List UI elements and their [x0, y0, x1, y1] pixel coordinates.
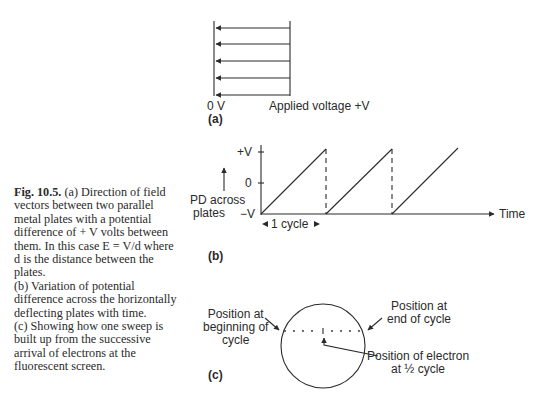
caption-b: (b) Variation of potential difference ac…: [14, 280, 179, 320]
cycle-label: 1 cycle: [271, 217, 308, 231]
figure-number: Fig. 10.5.: [14, 185, 61, 199]
panel-a-label: (a): [208, 112, 223, 126]
tick-plus-v: +V: [237, 145, 252, 159]
caption-c: (c) Showing how one sweep is built up fr…: [14, 320, 179, 374]
panel-c-label: (c): [208, 368, 223, 382]
figure-caption: Fig. 10.5. (a) Direction of field vector…: [14, 186, 179, 374]
cycle-right-arrow-icon: [314, 221, 320, 227]
end-position-label: Position at end of cycle: [387, 300, 451, 326]
caption-a: (a) Direction of field vectors between t…: [14, 185, 174, 279]
ramp-2: [326, 149, 392, 214]
cycle-left-arrow-icon: [262, 221, 268, 227]
y-axis-label-1: PD across: [190, 193, 245, 207]
end-pointer: [368, 318, 382, 330]
y-axis-label-2: plates: [193, 206, 225, 220]
ramp-1: [261, 149, 326, 214]
fluorescent-screen: [281, 304, 365, 388]
panel-c-screen: [265, 304, 382, 388]
start-position-label: Position at beginning of cycle: [203, 308, 268, 347]
mid-position-label: Position of electron at ½ cycle: [367, 350, 469, 376]
right-plate-label: Applied voltage +V: [269, 99, 369, 113]
electron-dots: [284, 330, 360, 332]
tick-minus-v: −V: [240, 207, 255, 221]
panel-a-plates: [214, 21, 290, 96]
x-axis-label: Time: [499, 207, 525, 221]
tick-zero: 0: [245, 176, 252, 190]
panel-b-label: (b): [208, 249, 223, 263]
panel-b-chart: [224, 145, 494, 227]
ramp-3: [392, 148, 458, 214]
left-plate-label: 0 V: [207, 99, 225, 113]
